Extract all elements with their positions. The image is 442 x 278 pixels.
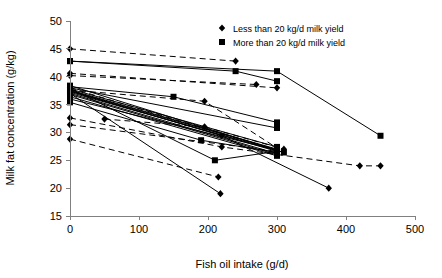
data-point-marker: [212, 157, 218, 163]
series-high-yield-4: [67, 85, 280, 131]
data-point-marker: [274, 119, 280, 125]
series-line: [70, 99, 277, 150]
x-axis-tick-label: 300: [268, 223, 286, 235]
legend-marker-diamond: [219, 24, 225, 31]
y-axis-tick-label: 35: [50, 99, 62, 111]
x-axis-tick-label: 0: [67, 223, 73, 235]
y-axis-tick-label: 20: [50, 182, 62, 194]
data-point-marker: [217, 190, 223, 197]
data-point-marker: [198, 137, 204, 143]
legend-marker-square: [219, 39, 225, 45]
y-axis-tick-label: 25: [50, 154, 62, 166]
x-axis-tick-label: 200: [199, 223, 217, 235]
y-axis-tick-label: 15: [50, 210, 62, 222]
series-low-yield-3: [67, 72, 260, 88]
chart-legend: Less than 20 kg/d milk yieldMore than 20…: [219, 24, 345, 48]
data-point-marker: [274, 78, 280, 84]
chart-container: 15202530354045500100200300400500 Less th…: [0, 0, 442, 278]
series-low-yield-7: [101, 115, 287, 152]
data-point-marker: [233, 68, 239, 74]
legend-label: More than 20 kg/d milk yield: [233, 38, 345, 48]
tick-labels-layer: 15202530354045500100200300400500: [50, 15, 424, 235]
y-axis-tick-label: 30: [50, 126, 62, 138]
series-low-yield-11: [67, 90, 224, 197]
x-axis-tick-label: 500: [406, 223, 424, 235]
series-line: [70, 61, 277, 81]
y-axis-title: Milk fat concentration (g/kg): [4, 50, 16, 185]
data-point-marker: [215, 173, 221, 180]
y-axis-tick-label: 45: [50, 43, 62, 55]
y-axis-tick-label: 50: [50, 15, 62, 27]
data-point-marker: [357, 162, 363, 169]
x-axis-tick-label: 100: [130, 223, 148, 235]
series-line: [70, 87, 277, 123]
series-line: [70, 92, 284, 152]
data-point-marker: [274, 125, 280, 131]
data-point-marker: [378, 133, 384, 139]
data-point-marker: [377, 162, 383, 169]
data-point-marker: [171, 94, 177, 100]
data-point-marker: [281, 149, 287, 155]
x-axis-title: Fish oil intake (g/d): [196, 258, 289, 270]
legend-label: Less than 20 kg/d milk yield: [233, 24, 344, 34]
data-point-marker: [274, 68, 280, 74]
data-point-marker: [232, 58, 238, 65]
data-point-marker: [274, 147, 280, 153]
data-series-layer: [67, 45, 384, 197]
series-line: [70, 76, 256, 85]
data-point-marker: [274, 84, 280, 91]
y-axis-tick-label: 40: [50, 71, 62, 83]
data-point-marker: [326, 185, 332, 192]
series-line: [70, 139, 218, 177]
data-point-marker: [253, 81, 259, 88]
series-line: [70, 49, 236, 61]
x-axis-tick-label: 400: [337, 223, 355, 235]
milk-fat-vs-fish-oil-chart: 15202530354045500100200300400500 Less th…: [0, 0, 442, 278]
